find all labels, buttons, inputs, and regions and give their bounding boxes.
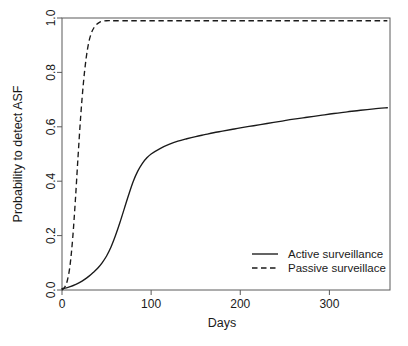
x-axis-tick-label: 200: [230, 297, 250, 311]
x-axis-tick-label: 300: [319, 297, 339, 311]
y-axis-title: Probability to detect ASF: [11, 85, 25, 222]
figure-background: [0, 0, 408, 346]
y-axis-tick-label: 0.6: [44, 118, 58, 135]
y-axis-tick-label: 1.0: [44, 9, 58, 26]
x-axis-title: Days: [208, 316, 236, 330]
y-axis-tick-label: 0.0: [44, 281, 58, 298]
plot-svg: 0.00.20.40.60.81.0 0100200300 Probabilit…: [0, 0, 408, 346]
legend-label-passive-surveillace: Passive surveillace: [288, 262, 386, 274]
x-axis-tick-label: 0: [59, 297, 66, 311]
legend-label-active-surveillance: Active surveillance: [288, 248, 383, 260]
y-axis-tick-label: 0.2: [44, 227, 58, 244]
x-axis-tick-label: 100: [141, 297, 161, 311]
chart-figure: 0.00.20.40.60.81.0 0100200300 Probabilit…: [0, 0, 408, 346]
y-axis-tick-label: 0.4: [44, 173, 58, 190]
y-axis-tick-label: 0.8: [44, 64, 58, 81]
